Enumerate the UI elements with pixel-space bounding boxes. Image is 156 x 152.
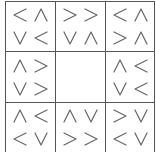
arrow-down-icon [132,107,150,125]
arrow-up-icon [111,57,129,75]
arrow-down-icon [11,80,29,98]
arrow-left-icon [32,107,50,125]
grid-cell-r2-c3[interactable] [105,51,155,102]
arrow-right-icon [32,80,50,98]
arrow-left-icon [11,6,29,24]
grid-cell-r2-c1[interactable] [5,51,55,102]
arrow-right-icon [82,6,100,24]
arrow-right-icon [61,6,79,24]
arrow-left-icon [11,130,29,148]
grid-cell-r1-c3[interactable] [105,1,155,51]
arrow-down-icon [61,29,79,47]
arrow-left-icon [111,6,129,24]
arrow-up-icon [11,57,29,75]
arrow-up-icon [132,6,150,24]
arrow-right-icon [82,130,100,148]
grid-cell-r1-c2[interactable] [55,1,105,51]
arrow-up-icon [82,29,100,47]
arrow-left-icon [111,130,129,148]
arrow-right-icon [61,130,79,148]
grid-cell-r3-c1[interactable] [5,102,55,152]
arrow-up-icon [32,6,50,24]
arrow-up-icon [61,107,79,125]
arrow-down-icon [11,29,29,47]
arrow-up-icon [11,107,29,125]
grid-cell-r1-c1[interactable] [5,1,55,51]
arrow-right-icon [111,29,129,47]
grid-cell-r3-c2[interactable] [55,102,105,152]
arrow-up-icon [132,29,150,47]
arrow-left-icon [32,29,50,47]
arrow-down-icon [82,107,100,125]
arrow-right-icon [32,57,50,75]
arrow-left-icon [132,57,150,75]
grid-cell-r2-c2[interactable] [55,51,105,102]
grid-cell-r3-c3[interactable] [105,102,155,152]
arrow-down-icon [32,130,50,148]
arrow-down-icon [111,80,129,98]
arrow-down-icon [132,130,150,148]
puzzle-grid [5,1,155,152]
arrow-right-icon [111,107,129,125]
arrow-left-icon [132,80,150,98]
